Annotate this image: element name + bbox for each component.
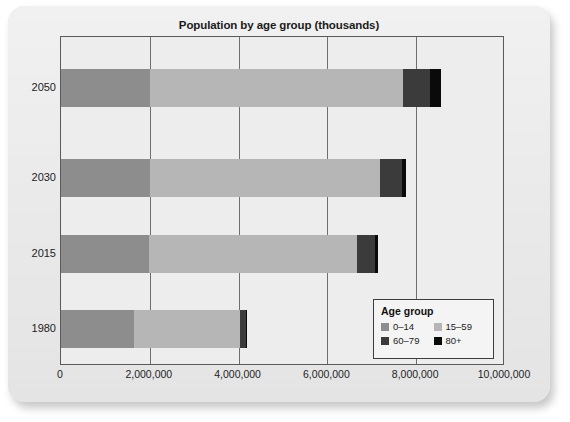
bar-segment[interactable]: [150, 69, 403, 107]
bar-segment[interactable]: [134, 310, 241, 348]
y-axis-tick-label: 2030: [10, 171, 56, 183]
legend-item[interactable]: 15–59: [434, 321, 487, 332]
x-axis-tick-label: 6,000,000: [303, 368, 350, 380]
x-axis-tick-label: 2,000,000: [125, 368, 172, 380]
y-axis-tick-label: 2015: [10, 247, 56, 259]
legend-items: 0–1415–5960–7980+: [381, 321, 486, 346]
chart-card: Population by age group (thousands) 2050…: [8, 6, 550, 402]
chart-title: Population by age group (thousands): [8, 19, 550, 31]
legend-item[interactable]: 80+: [434, 335, 487, 346]
bar-row[interactable]: [61, 235, 505, 273]
legend-item[interactable]: 0–14: [381, 321, 434, 332]
x-axis-tick-label: 0: [57, 368, 63, 380]
x-axis-tick-label: 10,000,000: [478, 368, 531, 380]
bar-segment[interactable]: [357, 235, 376, 273]
bar-segment[interactable]: [150, 159, 380, 197]
bar-segment[interactable]: [61, 159, 150, 197]
y-axis-labels: 2050203020151980: [8, 36, 56, 365]
bar-segment[interactable]: [246, 310, 247, 348]
bar-segment[interactable]: [61, 69, 150, 107]
x-axis-labels: 02,000,0004,000,0006,000,0008,000,00010,…: [60, 368, 504, 390]
bar-segment[interactable]: [430, 69, 441, 107]
bar-segment[interactable]: [403, 69, 430, 107]
bar-segment[interactable]: [61, 310, 134, 348]
legend-title: Age group: [381, 305, 486, 317]
bar-segment[interactable]: [61, 235, 149, 273]
bar-segment[interactable]: [149, 235, 357, 273]
legend-item[interactable]: 60–79: [381, 335, 434, 346]
legend-swatch-icon: [434, 323, 442, 331]
bar-row[interactable]: [61, 69, 505, 107]
legend-item-label: 80+: [446, 335, 462, 346]
legend-swatch-icon: [381, 337, 389, 345]
x-axis-tick-label: 4,000,000: [214, 368, 261, 380]
legend-swatch-icon: [434, 337, 442, 345]
legend: Age group 0–1415–5960–7980+: [373, 299, 494, 359]
legend-item-label: 0–14: [393, 321, 414, 332]
bar-segment[interactable]: [380, 159, 402, 197]
legend-item-label: 60–79: [393, 335, 419, 346]
legend-swatch-icon: [381, 323, 389, 331]
bar-segment[interactable]: [375, 235, 377, 273]
y-axis-tick-label: 1980: [10, 322, 56, 334]
legend-item-label: 15–59: [446, 321, 472, 332]
bar-row[interactable]: [61, 159, 505, 197]
bar-segment[interactable]: [402, 159, 406, 197]
y-axis-tick-label: 2050: [10, 81, 56, 93]
x-axis-tick-label: 8,000,000: [392, 368, 439, 380]
